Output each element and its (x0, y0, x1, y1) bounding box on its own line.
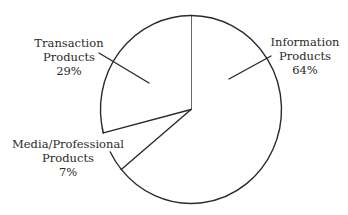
pie-chart: InformationProducts64%Media/Professional… (0, 0, 348, 215)
slice-label-media: Media/ProfessionalProducts7% (12, 137, 124, 179)
slice-label-line: Products (42, 151, 94, 165)
slice-label-line: Media/Professional (12, 137, 124, 151)
slice-percent: 29% (56, 64, 82, 78)
slice-label-line: Information (270, 35, 340, 49)
slice-label-information: InformationProducts64% (270, 35, 340, 77)
slice-label-line: Transaction (34, 36, 104, 50)
slice-percent: 64% (292, 63, 318, 77)
slice-percent: 7% (59, 165, 77, 179)
slice-label-line: Products (279, 49, 331, 63)
slice-label-line: Products (43, 50, 95, 64)
slice-label-transaction: TransactionProducts29% (34, 36, 104, 78)
